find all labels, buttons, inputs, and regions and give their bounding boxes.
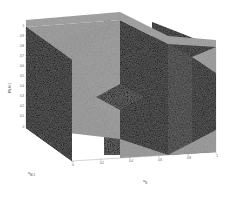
z-tick-4: 0.6 bbox=[20, 65, 24, 68]
z-tick-7: 0.3 bbox=[20, 95, 24, 98]
z-tick-10: 0 bbox=[22, 126, 24, 129]
x-tick-1: 0.2 bbox=[100, 162, 104, 165]
x-tick-4: 0.8 bbox=[187, 157, 191, 160]
z-tick-3: 0.7 bbox=[20, 55, 24, 58]
y-axis-label-sub: M-1 bbox=[30, 173, 35, 177]
y-tick-3: 0.4 bbox=[58, 150, 62, 153]
y-tick-1: 0.8 bbox=[40, 137, 44, 140]
z-tick-8: 0.2 bbox=[20, 105, 24, 108]
z-tick-6: 0.4 bbox=[20, 85, 24, 88]
z-tick-9: 0.1 bbox=[20, 115, 24, 118]
x-tick-3: 0.6 bbox=[158, 159, 162, 162]
x-tick-5: 1 bbox=[216, 155, 218, 158]
figure-canvas: 1 0.9 0.8 0.7 0.6 0.5 0.4 0.3 0.2 0.1 0 … bbox=[0, 0, 234, 201]
y-tick-0: 1 bbox=[31, 130, 33, 133]
z-tick-1: 0.9 bbox=[20, 35, 24, 38]
y-tick-4: 0.2 bbox=[66, 156, 70, 159]
x-axis-label-sub: N bbox=[145, 181, 147, 185]
z-tick-5: 0.5 bbox=[20, 75, 24, 78]
x-tick-2: 0.4 bbox=[129, 160, 133, 163]
z-axis-label-text: p bbox=[6, 91, 11, 93]
z-tick-0: 1 bbox=[22, 25, 24, 28]
y-axis-label: xM-1 bbox=[28, 170, 35, 177]
z-axis-label: pN,M-1 bbox=[6, 83, 13, 94]
z-tick-2: 0.8 bbox=[20, 45, 24, 48]
x-axis-label: xN bbox=[143, 178, 147, 185]
x-tick-0: 0 bbox=[72, 164, 74, 167]
z-axis-label-sub: N,M-1 bbox=[8, 83, 12, 91]
y-tick-2: 0.6 bbox=[49, 143, 53, 146]
